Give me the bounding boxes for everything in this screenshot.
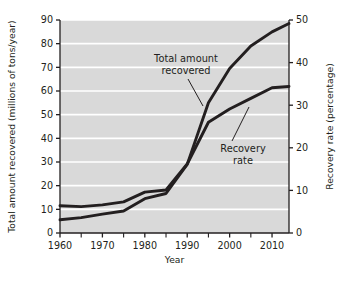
y-axis-right-tick-label: 50 bbox=[296, 14, 308, 25]
x-axis-tick-label: 1980 bbox=[133, 240, 157, 251]
y-axis-left: 0102030405060708090 bbox=[41, 14, 60, 238]
dual-axis-line-chart: 0102030405060708090010203040501960197019… bbox=[0, 0, 345, 281]
y-axis-left-tick-label: 80 bbox=[41, 38, 53, 49]
y-axis-left-title: Total amount recovered (millions of tons… bbox=[6, 20, 17, 233]
total-amount-annotation-line1: Total amount bbox=[153, 53, 218, 64]
y-axis-left-tick-label: 30 bbox=[41, 156, 53, 167]
y-axis-right-tick-label: 40 bbox=[296, 57, 308, 68]
x-axis-tick-label: 1990 bbox=[175, 240, 199, 251]
y-axis-right-tick-label: 20 bbox=[296, 142, 308, 153]
y-axis-left-tick-label: 70 bbox=[41, 62, 53, 73]
y-axis-right: 01020304050 bbox=[289, 14, 308, 238]
chart-container: 0102030405060708090010203040501960197019… bbox=[0, 0, 345, 281]
y-axis-left-tick-label: 20 bbox=[41, 180, 53, 191]
recovery-rate-annotation-line1: Recovery bbox=[220, 143, 266, 154]
x-axis-tick-label: 1960 bbox=[48, 240, 72, 251]
y-axis-right-title: Recovery rate (percentage) bbox=[324, 63, 335, 190]
y-axis-left-tick-label: 10 bbox=[41, 204, 53, 215]
y-axis-left-tick-label: 40 bbox=[41, 133, 53, 144]
x-axis-tick-label: 2000 bbox=[217, 240, 241, 251]
y-axis-right-tick-label: 10 bbox=[296, 185, 308, 196]
x-axis-tick-label: 1970 bbox=[90, 240, 114, 251]
y-axis-left-tick-label: 0 bbox=[47, 227, 53, 238]
plot-background bbox=[60, 20, 289, 233]
y-axis-left-tick-label: 60 bbox=[41, 85, 53, 96]
x-axis-tick-label: 2010 bbox=[260, 240, 284, 251]
x-axis: 196019701980199020002010 bbox=[48, 233, 289, 251]
y-axis-right-tick-label: 30 bbox=[296, 100, 308, 111]
y-axis-left-tick-label: 90 bbox=[41, 14, 53, 25]
y-axis-left-tick-label: 50 bbox=[41, 109, 53, 120]
y-axis-right-tick-label: 0 bbox=[296, 227, 302, 238]
total-amount-annotation-line2: recovered bbox=[161, 65, 210, 76]
recovery-rate-annotation-line2: rate bbox=[233, 155, 253, 166]
x-axis-title: Year bbox=[164, 254, 185, 265]
